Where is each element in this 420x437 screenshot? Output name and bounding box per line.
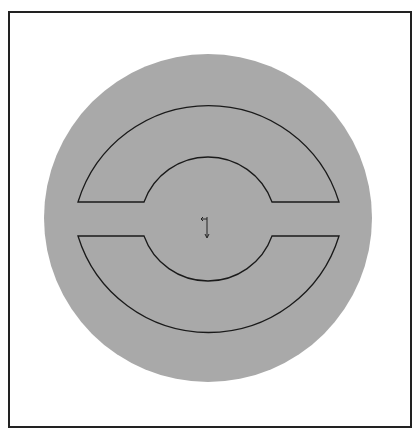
diagram-canvas (0, 0, 420, 437)
